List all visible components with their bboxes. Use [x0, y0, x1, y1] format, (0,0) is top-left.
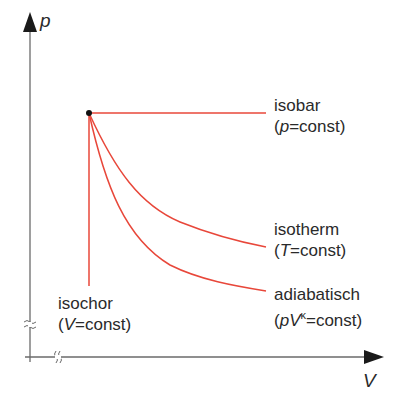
isobar-name: isobar	[274, 95, 345, 116]
isobar-label: isobar (p=const)	[274, 95, 345, 137]
isochor-name: isochor	[58, 293, 131, 314]
y-axis-arrow-icon	[23, 12, 37, 32]
isochor-condition: (V=const)	[58, 314, 131, 335]
isochor-label: isochor (V=const)	[58, 293, 131, 335]
adiabatic-label: adiabatisch (pVκ=const)	[274, 284, 362, 331]
adiabatic-curve	[89, 113, 266, 291]
adiabatic-name: adiabatisch	[274, 284, 362, 305]
y-axis-label: p	[40, 10, 51, 32]
x-axis-arrow-icon	[364, 350, 384, 364]
start-point	[86, 110, 92, 116]
isotherm-name: isotherm	[274, 219, 346, 240]
x-axis-label: V	[363, 370, 376, 392]
isotherm-label: isotherm (T=const)	[274, 219, 346, 261]
isobar-condition: (p=const)	[274, 116, 345, 137]
adiabatic-condition: (pVκ=const)	[274, 305, 362, 331]
isotherm-curve	[89, 113, 266, 247]
isotherm-condition: (T=const)	[274, 240, 346, 261]
pv-diagram	[0, 0, 404, 408]
